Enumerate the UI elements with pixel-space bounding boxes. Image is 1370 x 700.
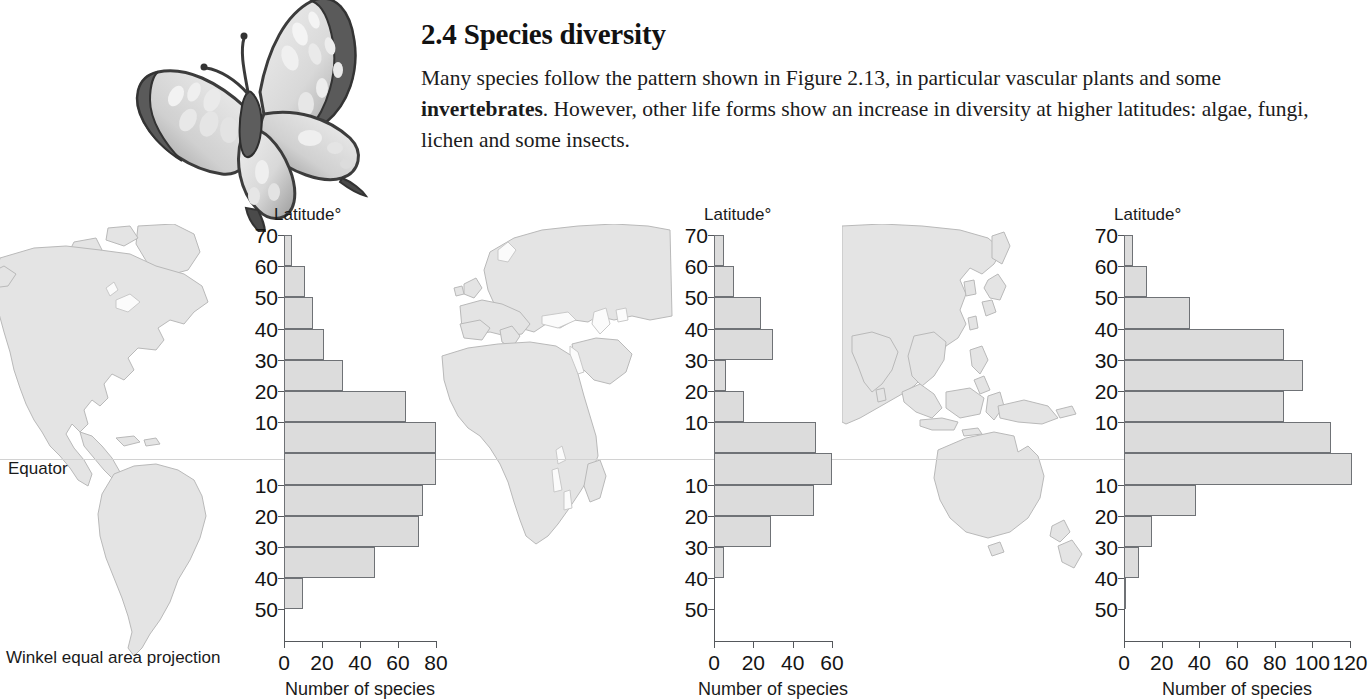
y-tick-mark bbox=[278, 391, 284, 392]
x-tick-mark bbox=[714, 641, 715, 648]
x-tick-mark bbox=[360, 641, 361, 648]
plot-area bbox=[284, 235, 436, 609]
map-americas bbox=[0, 224, 240, 664]
y-tick-mark bbox=[1118, 609, 1124, 610]
x-tick-label: 0 bbox=[264, 651, 304, 675]
y-tick-mark bbox=[1118, 485, 1124, 486]
bar bbox=[284, 422, 436, 453]
x-tick-label: 0 bbox=[694, 651, 734, 675]
y-tick-mark bbox=[278, 547, 284, 548]
bar bbox=[714, 360, 726, 391]
y-tick-label: 20 bbox=[674, 505, 708, 529]
y-tick-mark bbox=[278, 609, 284, 610]
bar bbox=[284, 453, 436, 484]
y-tick-label: 40 bbox=[674, 318, 708, 342]
y-tick-label: 20 bbox=[244, 380, 278, 404]
bar bbox=[714, 547, 724, 578]
y-tick-label: 10 bbox=[1084, 411, 1118, 435]
y-tick-mark bbox=[708, 360, 714, 361]
map-asia-australia bbox=[842, 224, 1092, 629]
y-tick-label: 20 bbox=[1084, 505, 1118, 529]
y-tick-mark bbox=[708, 547, 714, 548]
y-tick-mark bbox=[708, 485, 714, 486]
x-tick-label: 20 bbox=[733, 651, 773, 675]
y-tick-mark bbox=[1118, 329, 1124, 330]
y-tick-label: 30 bbox=[1084, 349, 1118, 373]
bar bbox=[284, 485, 423, 516]
bar bbox=[284, 578, 303, 609]
bar bbox=[284, 547, 375, 578]
y-tick-mark bbox=[708, 578, 714, 579]
paragraph-text-tail: . However, other life forms show an incr… bbox=[421, 97, 1309, 152]
y-tick-mark bbox=[708, 266, 714, 267]
chart-y-axis-title: Latitude° bbox=[1114, 205, 1181, 225]
y-tick-label: 20 bbox=[674, 380, 708, 404]
butterfly-illustration-icon bbox=[114, 0, 380, 232]
bar bbox=[1124, 266, 1147, 297]
bar bbox=[284, 235, 292, 266]
bar bbox=[1124, 485, 1196, 516]
chart-x-axis-title: Number of species bbox=[698, 679, 848, 700]
equator-label: Equator bbox=[8, 459, 68, 479]
y-tick-mark bbox=[1118, 266, 1124, 267]
y-tick-label: 70 bbox=[244, 224, 278, 248]
page-title: 2.4 Species diversity bbox=[421, 18, 1336, 51]
y-tick-label: 70 bbox=[1084, 224, 1118, 248]
y-tick-mark bbox=[278, 266, 284, 267]
bar bbox=[714, 235, 724, 266]
x-tick-mark bbox=[1312, 641, 1313, 648]
y-tick-mark bbox=[1118, 297, 1124, 298]
article-header: 2.4 Species diversity Many species follo… bbox=[421, 18, 1336, 156]
y-tick-mark bbox=[1118, 547, 1124, 548]
x-tick-mark bbox=[398, 641, 399, 648]
y-tick-mark bbox=[1118, 235, 1124, 236]
y-tick-mark bbox=[278, 329, 284, 330]
y-tick-mark bbox=[1118, 391, 1124, 392]
x-tick-label: 20 bbox=[1142, 651, 1182, 675]
y-tick-label: 40 bbox=[1084, 567, 1118, 591]
y-tick-label: 50 bbox=[244, 286, 278, 310]
x-tick-label: 0 bbox=[1104, 651, 1144, 675]
chart-y-axis-title: Latitude° bbox=[274, 205, 341, 225]
x-tick-mark bbox=[1350, 641, 1351, 648]
x-tick-mark bbox=[1275, 641, 1276, 648]
chart-x-axis-title: Number of species bbox=[285, 679, 435, 700]
x-tick-mark bbox=[322, 641, 323, 648]
y-tick-label: 30 bbox=[244, 349, 278, 373]
x-tick-label: 20 bbox=[302, 651, 342, 675]
x-tick-label: 80 bbox=[1255, 651, 1295, 675]
y-tick-label: 60 bbox=[674, 255, 708, 279]
y-tick-label: 10 bbox=[1084, 474, 1118, 498]
chart-y-axis-title: Latitude° bbox=[704, 205, 771, 225]
bar bbox=[284, 329, 324, 360]
y-tick-label: 50 bbox=[1084, 286, 1118, 310]
y-tick-label: 50 bbox=[674, 598, 708, 622]
y-tick-label: 20 bbox=[244, 505, 278, 529]
y-tick-mark bbox=[278, 516, 284, 517]
x-tick-label: 80 bbox=[416, 651, 456, 675]
x-tick-label: 40 bbox=[340, 651, 380, 675]
x-tick-label: 100 bbox=[1292, 651, 1332, 675]
bar bbox=[714, 516, 771, 547]
bar bbox=[1124, 547, 1139, 578]
y-tick-label: 30 bbox=[674, 536, 708, 560]
map-africa-europe bbox=[438, 224, 673, 624]
y-tick-label: 60 bbox=[244, 255, 278, 279]
y-tick-mark bbox=[708, 516, 714, 517]
bar bbox=[1124, 360, 1303, 391]
y-tick-label: 30 bbox=[674, 349, 708, 373]
x-tick-mark bbox=[832, 641, 833, 648]
paragraph-text-lead: Many species follow the pattern shown in… bbox=[421, 66, 1221, 90]
bar bbox=[714, 485, 814, 516]
y-tick-label: 10 bbox=[244, 474, 278, 498]
y-tick-mark bbox=[278, 297, 284, 298]
paragraph-bold-term: invertebrates bbox=[421, 97, 543, 121]
bar bbox=[284, 360, 343, 391]
y-tick-mark bbox=[278, 578, 284, 579]
bar bbox=[1124, 391, 1284, 422]
y-tick-label: 40 bbox=[674, 567, 708, 591]
chart-x-axis-title: Number of species bbox=[1162, 679, 1312, 700]
y-tick-label: 50 bbox=[674, 286, 708, 310]
y-tick-mark bbox=[708, 422, 714, 423]
x-tick-label: 120 bbox=[1330, 651, 1370, 675]
